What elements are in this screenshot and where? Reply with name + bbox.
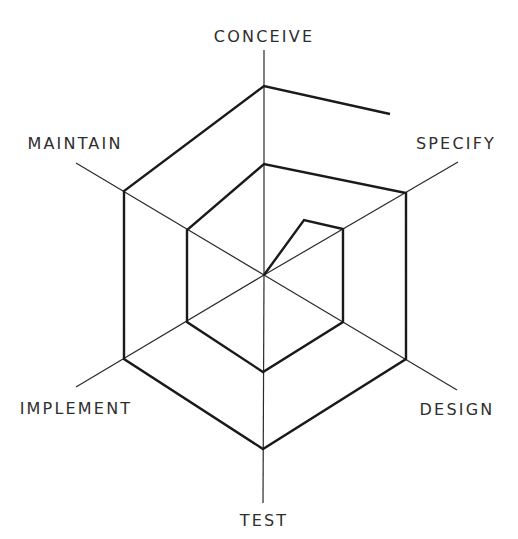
label-conceive: CONCEIVE bbox=[214, 27, 314, 46]
label-design: DESIGN bbox=[420, 400, 495, 419]
axis-specify bbox=[264, 162, 458, 275]
axis-test bbox=[263, 275, 264, 503]
spiral-lifecycle-diagram: CONCEIVE SPECIFY DESIGN TEST IMPLEMENT M… bbox=[0, 0, 518, 539]
spiral-path bbox=[124, 86, 406, 449]
axis-maintain bbox=[76, 163, 264, 275]
axis-design bbox=[264, 275, 457, 390]
axes bbox=[76, 50, 458, 503]
label-test: TEST bbox=[239, 511, 289, 530]
label-specify: SPECIFY bbox=[416, 134, 496, 153]
axis-implement bbox=[76, 275, 264, 387]
label-maintain: MAINTAIN bbox=[27, 134, 122, 153]
label-implement: IMPLEMENT bbox=[20, 399, 133, 418]
